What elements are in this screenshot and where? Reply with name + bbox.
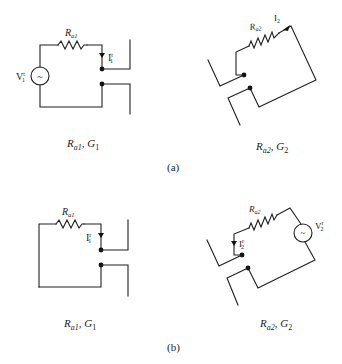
antenna-arm bbox=[208, 60, 244, 86]
current-arrow-icon bbox=[283, 25, 290, 31]
resistor-icon bbox=[249, 32, 279, 48]
caption-b-circuit-1: Ra1, G1 bbox=[64, 317, 96, 332]
antenna-arm bbox=[101, 220, 128, 250]
resistor-icon bbox=[56, 220, 84, 228]
resistor-label: Ra2 bbox=[248, 20, 262, 33]
panel-label-b: (b) bbox=[167, 341, 180, 353]
wire bbox=[40, 45, 58, 67]
panel-b-circuit-2: ~ Ra2 Ir2 Vr2 bbox=[207, 204, 324, 305]
wire bbox=[39, 224, 56, 287]
antenna-arm bbox=[207, 240, 242, 266]
panel-a-circuit-2: Ra2 I2 bbox=[208, 13, 316, 125]
caption-b-circuit-2: Ra2, G2 bbox=[260, 317, 292, 332]
resistor-icon bbox=[58, 41, 87, 49]
tilde-icon: ~ bbox=[301, 228, 306, 238]
source-label: Vr2 bbox=[315, 220, 324, 232]
wire bbox=[236, 46, 249, 75]
current-label: Ir2 bbox=[239, 238, 244, 250]
resistor-label: Ra1 bbox=[61, 206, 75, 218]
antenna-arm bbox=[102, 84, 130, 114]
wire bbox=[40, 84, 102, 107]
reciprocity-diagram: ~ Ra1 It1 Vt1 Ra2 I2 bbox=[0, 0, 342, 364]
antenna-arm bbox=[102, 40, 130, 69]
current-arrow-icon bbox=[98, 233, 104, 238]
wire bbox=[248, 242, 315, 288]
current-label: I2 bbox=[274, 13, 280, 24]
current-arrow-icon bbox=[231, 241, 237, 246]
panel-b-circuit-1: Ra1 Ir1 bbox=[39, 206, 128, 296]
wire bbox=[250, 26, 316, 107]
panel-label-a: (a) bbox=[167, 161, 179, 173]
wire bbox=[277, 208, 301, 224]
tilde-icon: ~ bbox=[37, 71, 43, 82]
source-label: Vt1 bbox=[16, 71, 25, 83]
current-label: Ir1 bbox=[86, 232, 91, 244]
current-label: It1 bbox=[108, 52, 113, 64]
antenna-arm bbox=[101, 265, 128, 296]
antenna-arm bbox=[227, 268, 248, 305]
wire bbox=[87, 45, 102, 69]
caption-a-circuit-2: Ra2, G2 bbox=[256, 140, 288, 155]
wire bbox=[39, 265, 101, 287]
panel-a-circuit-1: ~ Ra1 It1 Vt1 bbox=[16, 27, 130, 114]
resistor-label: Ra2 bbox=[248, 204, 261, 215]
antenna-arm bbox=[228, 88, 250, 125]
current-arrow-icon bbox=[99, 53, 105, 58]
resistor-label: Ra1 bbox=[64, 27, 78, 39]
caption-a-circuit-1: Ra1, G1 bbox=[67, 137, 99, 152]
resistor-icon bbox=[249, 214, 277, 230]
